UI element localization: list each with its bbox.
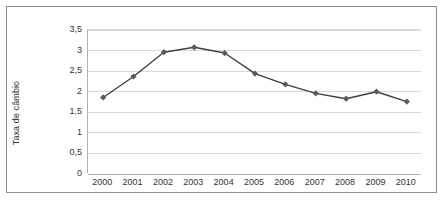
y-axis-title: Taxa de câmbio	[11, 53, 21, 173]
data-point-marker	[313, 90, 319, 96]
x-axis-tick-label: 2008	[335, 177, 355, 187]
y-axis-tick-label: 2	[77, 86, 82, 96]
line-series-svg	[88, 30, 422, 174]
x-axis-tick-label: 2004	[214, 177, 234, 187]
plot-area	[87, 29, 421, 173]
x-axis-tick-label: 2009	[365, 177, 385, 187]
x-axis-tick-label: 2003	[183, 177, 203, 187]
figure: Taxa de câmbio 00,511,522,533,5 20002001…	[0, 0, 445, 216]
data-point-marker	[282, 81, 288, 87]
x-axis-tick-label: 2005	[244, 177, 264, 187]
y-axis-tick-label: 0	[77, 168, 82, 178]
data-point-marker	[373, 89, 379, 95]
y-axis-tick-label: 1,5	[69, 106, 82, 116]
x-axis-tick-label: 2006	[274, 177, 294, 187]
data-point-marker	[343, 96, 349, 102]
x-axis-tick-label: 2007	[305, 177, 325, 187]
y-axis-tick-label: 0,5	[69, 147, 82, 157]
y-axis-tick-label: 2,5	[69, 65, 82, 75]
x-axis-tick-label: 2001	[123, 177, 143, 187]
x-axis-tick-label: 2000	[92, 177, 112, 187]
chart-area: Taxa de câmbio 00,511,522,533,5 20002001…	[25, 17, 429, 195]
y-axis-tick-label: 3	[77, 45, 82, 55]
chart-outer-frame: Taxa de câmbio 00,511,522,533,5 20002001…	[6, 6, 437, 193]
x-axis-tick-label: 2010	[396, 177, 416, 187]
y-axis-tick-label: 3,5	[69, 24, 82, 34]
y-axis-tick-labels: 00,511,522,533,5	[59, 17, 85, 195]
x-axis-tick-label: 2002	[153, 177, 173, 187]
data-point-marker	[404, 98, 410, 104]
data-point-marker	[191, 44, 197, 50]
y-axis-tick-label: 1	[77, 127, 82, 137]
x-axis-tick-labels: 2000200120022003200420052006200720082009…	[87, 177, 421, 193]
